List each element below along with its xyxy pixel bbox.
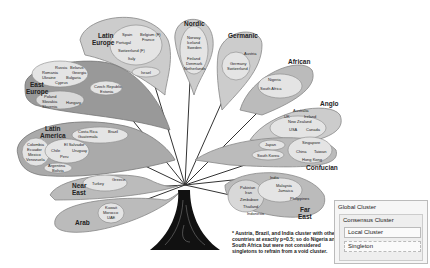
- svg-text:Bolivia: Bolivia: [52, 168, 65, 173]
- svg-text:Hong Kong: Hong Kong: [302, 157, 322, 162]
- svg-text:Guatemala: Guatemala: [78, 134, 98, 139]
- cluster-label: East: [30, 81, 45, 88]
- cluster-label: Latin: [45, 125, 61, 132]
- svg-text:Slovenia: Slovenia: [42, 104, 58, 109]
- svg-text:New Zealand: New Zealand: [288, 119, 312, 124]
- cluster-label: America: [40, 132, 66, 139]
- svg-text:Israel: Israel: [141, 70, 151, 75]
- svg-text:Turkey: Turkey: [92, 181, 104, 186]
- cluster-label: African: [288, 58, 310, 65]
- svg-text:Venezuela: Venezuela: [26, 157, 45, 162]
- svg-text:South Korea: South Korea: [257, 153, 280, 158]
- cluster-label: Nordic: [184, 20, 205, 27]
- svg-text:Greece: Greece: [112, 177, 126, 182]
- svg-text:Peru: Peru: [60, 154, 68, 159]
- svg-text:Sweden: Sweden: [187, 45, 201, 50]
- svg-text:Switzerland (F): Switzerland (F): [118, 48, 146, 53]
- footnote: * Austria, Brazil, and India cluster wit…: [232, 230, 342, 254]
- svg-text:France: France: [142, 37, 155, 42]
- cluster-label: Near: [72, 182, 87, 189]
- svg-text:Netherlands: Netherlands: [184, 66, 206, 71]
- cluster-label: Germanic: [228, 32, 258, 39]
- svg-text:Japan: Japan: [265, 142, 276, 147]
- legend: Global Cluster Consensus Cluster Local C…: [334, 200, 428, 264]
- svg-text:Brazil: Brazil: [108, 129, 118, 134]
- svg-text:Austria: Austria: [244, 51, 257, 56]
- cluster-label: Anglo: [320, 100, 338, 108]
- cluster-nordic: Nordic Norway Iceland Sweden Finland Den…: [175, 19, 213, 95]
- svg-text:Singapore: Singapore: [302, 140, 321, 145]
- cluster-label: Far: [300, 206, 311, 213]
- svg-text:Taiwan: Taiwan: [314, 149, 326, 154]
- svg-text:Hungary: Hungary: [66, 100, 81, 105]
- svg-text:Jamaica: Jamaica: [278, 188, 294, 193]
- legend-local-cluster: Local Cluster: [344, 227, 421, 238]
- svg-text:Iran: Iran: [245, 190, 252, 195]
- svg-text:China: China: [296, 149, 307, 154]
- legend-singleton: Singleton: [344, 241, 421, 252]
- svg-text:Philippines: Philippines: [290, 196, 309, 201]
- legend-consensus-cluster: Consensus Cluster: [343, 217, 394, 223]
- cluster-near-east: Near East Turkey Greece: [50, 175, 178, 200]
- svg-text:Estonia: Estonia: [100, 89, 114, 94]
- svg-text:Nigeria: Nigeria: [268, 77, 281, 82]
- cluster-label: Confucian: [306, 164, 338, 171]
- svg-text:Cyprus: Cyprus: [55, 80, 68, 85]
- cluster-confucian: Confucian Japan South Korea Singapore Ch…: [195, 137, 338, 171]
- cluster-label: East: [72, 189, 87, 196]
- svg-text:Thailand: Thailand: [243, 204, 258, 209]
- svg-text:India: India: [270, 175, 279, 180]
- svg-text:USA: USA: [289, 127, 298, 132]
- cluster-label: Latin: [98, 32, 114, 39]
- cluster-latin-america: Latin America Costa Rica Guatemala Brazi…: [17, 122, 175, 176]
- legend-global-cluster: Global Cluster: [338, 204, 376, 210]
- cluster-label: East: [298, 213, 313, 220]
- svg-text:Uruguay: Uruguay: [72, 148, 87, 153]
- svg-text:Italy: Italy: [128, 56, 135, 61]
- svg-text:Indonesia: Indonesia: [247, 211, 265, 216]
- svg-text:Bulgaria: Bulgaria: [66, 75, 81, 80]
- svg-text:Zimbabwe: Zimbabwe: [240, 197, 259, 202]
- svg-text:Portugal: Portugal: [116, 40, 131, 45]
- cluster-label: Arab: [75, 219, 90, 226]
- svg-text:Canada: Canada: [306, 127, 321, 132]
- svg-text:UAE: UAE: [107, 215, 116, 220]
- svg-text:El Salvador: El Salvador: [64, 142, 85, 147]
- svg-text:Switzerland: Switzerland: [227, 66, 248, 71]
- cluster-label: Europe: [92, 39, 115, 47]
- tree-trunk: [150, 190, 220, 250]
- legend-consensus-box: Consensus Cluster Local Cluster Singleto…: [339, 214, 423, 261]
- svg-text:South Africa: South Africa: [260, 86, 282, 91]
- svg-text:Australia: Australia: [293, 108, 309, 113]
- cluster-far-east: Far East India Malaysia Jamaica Philippi…: [225, 173, 325, 220]
- svg-text:Chile: Chile: [51, 148, 61, 153]
- svg-text:Spain: Spain: [122, 32, 132, 37]
